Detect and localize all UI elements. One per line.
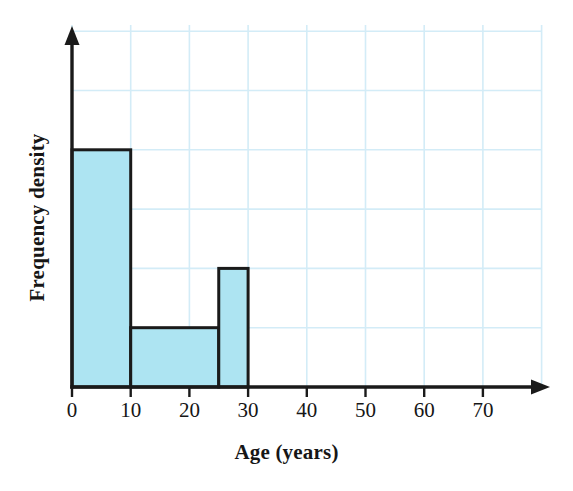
x-tick-label-60: 60 xyxy=(401,398,447,423)
histogram-bar-10-25[interactable] xyxy=(131,328,219,387)
histogram-bar-25-30[interactable] xyxy=(219,268,248,387)
x-tick-label-0: 0 xyxy=(49,398,95,423)
x-tick-label-70: 70 xyxy=(460,398,506,423)
histogram-figure: 0 10 20 30 40 50 60 70 Age (years) Frequ… xyxy=(0,0,573,491)
x-tick-label-50: 50 xyxy=(343,398,389,423)
histogram-bar-0-10[interactable] xyxy=(72,150,131,387)
x-tick-label-40: 40 xyxy=(284,398,330,423)
x-axis-arrow-icon xyxy=(531,380,550,395)
y-axis-arrow-icon xyxy=(65,26,80,45)
x-tick-label-20: 20 xyxy=(166,398,212,423)
x-tick-label-10: 10 xyxy=(108,398,154,423)
x-axis-title: Age (years) xyxy=(0,440,573,465)
y-axis-title: Frequency density xyxy=(25,68,50,368)
x-tick-label-30: 30 xyxy=(225,398,271,423)
